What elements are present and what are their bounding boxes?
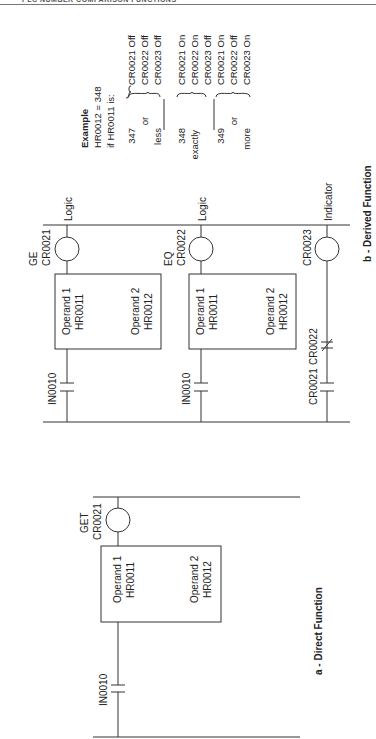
operand1-value: HR0011 [125, 562, 136, 598]
example-title: Example [79, 109, 90, 148]
coil-address: CR0021 [41, 229, 52, 266]
operand2-value: HR0012 [202, 561, 213, 598]
rung-indicator: Indicator CR0023 CR0021 CR0022 [302, 182, 339, 422]
figure-a-caption: a - Direct Function [313, 587, 324, 675]
ladder-diagrams: Logic GE CR0021 Operand 1 HR0011 Operand… [0, 0, 376, 739]
case3-cond-0: 349 [215, 128, 226, 144]
case3-cond-2: more [241, 128, 252, 150]
case1-cond-2: less [152, 128, 163, 145]
case2-result-0: CR0021 On [176, 35, 187, 85]
case2-result-2: CR0023 Off [202, 35, 213, 85]
contact-nc-address: CR0022 [308, 328, 319, 365]
case2-cond-1: exactly [189, 130, 200, 160]
output-label: Indicator [323, 182, 334, 221]
coil-type: EQ [163, 251, 174, 266]
contact-address: IN0010 [47, 372, 58, 405]
operand1-label: Operand 1 [112, 555, 123, 603]
coil-address: CR0022 [176, 229, 187, 266]
operand2-label: Operand 2 [189, 555, 200, 603]
coil-address: CR0023 [302, 229, 313, 266]
output-label: Logic [63, 197, 74, 221]
case2-cond-0: 348 [176, 128, 187, 144]
brace-icon [177, 92, 206, 97]
case1-result-1: CR0022 Off [139, 35, 150, 85]
coil-icon [315, 237, 339, 261]
coil-type: GET [79, 512, 90, 533]
coil-type: GE [28, 251, 39, 266]
coil-icon [55, 237, 79, 261]
figure-b-derived-function: Logic GE CR0021 Operand 1 HR0011 Operand… [28, 165, 373, 422]
rung-eq: Logic EQ CR0022 Operand 1 HR0011 Operand… [163, 197, 296, 422]
output-label: Logic [197, 197, 208, 221]
operand2-value: HR0012 [143, 293, 154, 330]
example-line1: HR0012 = 348 [92, 86, 103, 148]
operand1-label: Operand 1 [61, 287, 72, 335]
figure-b-caption: b - Derived Function [362, 165, 373, 262]
rung-ge: Logic GE CR0021 Operand 1 HR0011 Operand… [28, 197, 161, 422]
case3-result-2: CR0023 On [241, 35, 252, 85]
example-line2: if HR0011 is: [105, 94, 116, 148]
brace-icon [216, 92, 250, 97]
case1-cond-1: or [139, 117, 150, 125]
operand1-label: Operand 1 [195, 287, 206, 335]
case3-cond-1: or [228, 117, 239, 125]
coil-icon [189, 237, 213, 261]
contact-address: IN0010 [181, 372, 192, 405]
figure-a-direct-function: GET CR0021 Operand 1 HR0011 Operand 2 HR… [79, 497, 324, 737]
example-block: Example HR0012 = 348 if HR0011 is: 347 o… [79, 35, 252, 160]
case1-result-2: CR0023 Off [152, 35, 163, 85]
operand2-label: Operand 2 [130, 287, 141, 335]
brace-icon [128, 92, 160, 97]
operand2-value: HR0012 [278, 293, 289, 330]
contact-no-address: CR0021 [308, 368, 319, 405]
contact-address: IN0010 [98, 673, 109, 706]
operand1-value: HR0011 [74, 294, 85, 330]
case3-result-1: CR0022 Off [228, 35, 239, 85]
operand1-value: HR0011 [208, 294, 219, 330]
coil-icon [106, 508, 130, 532]
case3-result-0: CR0021 On [215, 35, 226, 85]
operand2-label: Operand 2 [265, 287, 276, 335]
case2-result-1: CR0022 On [189, 35, 200, 85]
case1-cond-0: 347 [126, 128, 137, 144]
case1-result-0: CR0021 Off [126, 35, 137, 85]
coil-address: CR0021 [92, 503, 103, 540]
